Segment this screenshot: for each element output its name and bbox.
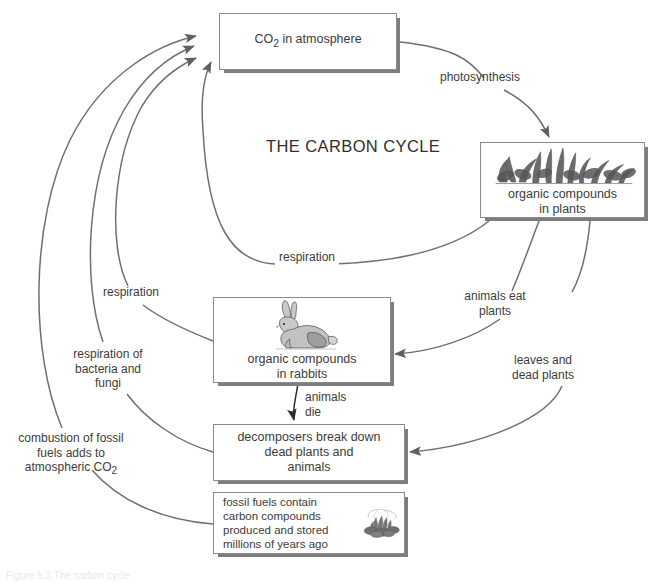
page-title: THE CARBON CYCLE — [266, 137, 440, 156]
figure-caption-remnant: Figure 5.3 The carbon cycle — [6, 570, 130, 581]
rabbit-illustration — [256, 299, 348, 351]
label-animals-eat-plants: animals eat plants — [453, 289, 537, 318]
carbon-cycle-diagram: THE CARBON CYCLE CO2 in atmosphere — [0, 0, 668, 582]
burning-coal-illustration — [360, 501, 404, 545]
node-decomposers-label: decomposers break down dead plants and a… — [237, 430, 380, 475]
arrow-respiration-rabbits — [143, 305, 213, 341]
label-respiration-bacteria-fungi: respiration of bacteria and fungi — [62, 347, 154, 391]
arrow-respiration-rabbits-2 — [116, 58, 196, 286]
arrow-animals-eat-plants-2 — [395, 319, 500, 354]
node-fossil-fuels: fossil fuels contain carbon compounds pr… — [213, 492, 405, 554]
arrow-photosynthesis-2 — [504, 90, 549, 137]
label-respiration-plants: respiration — [275, 250, 339, 265]
arrow-leaves-dead-plants — [572, 221, 590, 292]
node-plants-line1: organic compounds — [508, 187, 617, 202]
label-leaves-dead-plants: leaves and dead plants — [501, 353, 585, 382]
node-fossil-fuels-label: fossil fuels contain carbon compounds pr… — [214, 495, 356, 551]
label-combustion-text: combustion of fossil fuels adds to atmos… — [18, 431, 123, 474]
plants-illustration — [488, 143, 638, 186]
arrow-respiration-bacteria — [127, 394, 213, 452]
label-combustion-subscript: 2 — [112, 465, 118, 476]
arrow-respiration-plants — [332, 221, 489, 264]
arrow-animals-die — [293, 383, 298, 420]
arrow-leaves-dead-plants-2 — [410, 386, 562, 452]
label-photosynthesis: photosynthesis — [434, 70, 526, 85]
node-decomposers: decomposers break down dead plants and a… — [213, 424, 405, 481]
node-organic-compounds-plants: organic compounds in plants — [480, 142, 645, 218]
label-respiration-rabbits: respiration — [99, 285, 163, 300]
node-organic-compounds-rabbits: organic compounds in rabbits — [213, 297, 391, 383]
node-co2-atmosphere: CO2 in atmosphere — [219, 13, 397, 70]
node-rabbits-line1: organic compounds — [247, 352, 356, 367]
arrow-animals-eat-plants — [512, 221, 539, 291]
arrow-respiration-plants-2 — [202, 62, 275, 264]
node-rabbits-line2: in rabbits — [277, 367, 328, 382]
co2-text: CO — [254, 32, 273, 46]
node-co2-label: CO2 in atmosphere — [254, 32, 361, 51]
label-combustion-fossil-fuels: combustion of fossil fuels adds to atmos… — [12, 431, 130, 479]
co2-text-tail: in atmosphere — [279, 32, 362, 46]
node-plants-line2: in plants — [539, 202, 586, 217]
label-animals-die: animals die — [305, 390, 361, 419]
